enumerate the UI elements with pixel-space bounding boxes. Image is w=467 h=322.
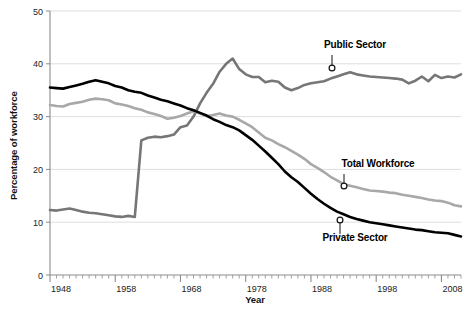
anchor-marker-public-sector [329,65,335,71]
y-tick-label-40: 40 [33,59,43,69]
x-tick-label-1988: 1988 [312,284,332,294]
anchor-marker-total-workforce [341,183,347,189]
line-chart-svg: 01020304050 1948195819681978198819982008… [0,0,467,322]
x-tick-label-2008: 2008 [442,284,462,294]
x-axis-title: Year [245,294,265,305]
y-tick-label-0: 0 [38,271,43,281]
chart-figure: 01020304050 1948195819681978198819982008… [0,0,467,322]
y-tick-label-10: 10 [33,218,43,228]
x-tick-label-1998: 1998 [377,284,397,294]
y-tick-label-20: 20 [33,165,43,175]
x-tick-label-1958: 1958 [116,284,136,294]
x-tick-label-1948: 1948 [51,284,71,294]
x-tick-label-1978: 1978 [247,284,267,294]
series-label-total-workforce: Total Workforce [342,158,416,169]
anchor-marker-private-sector [337,217,343,223]
y-tick-label-30: 30 [33,112,43,122]
x-tick-label-1968: 1968 [181,284,201,294]
series-label-public-sector: Public Sector [324,39,386,50]
y-tick-label-50: 50 [33,7,43,17]
y-axis-title: Percentage of workforce [8,91,19,200]
series-label-private-sector: Private Sector [322,232,387,243]
